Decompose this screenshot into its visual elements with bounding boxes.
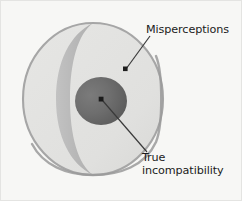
figure-page: Misperceptions Trueincompatibility (0, 0, 242, 201)
label-true-incompatibility-line2: incompatibility (142, 164, 223, 177)
true-incompatibility-leader-dot (99, 97, 104, 102)
label-true-incompatibility-line1: True (142, 151, 165, 164)
misperceptions-leader-dot (123, 67, 128, 72)
label-misperceptions: Misperceptions (146, 23, 229, 36)
label-true-incompatibility: Trueincompatibility (142, 151, 223, 177)
